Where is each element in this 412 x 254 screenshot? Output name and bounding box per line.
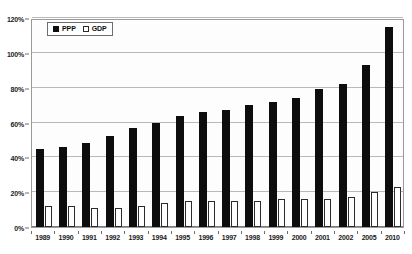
bar-gdp [208,201,215,227]
x-tick-label-1992: 1992 [105,234,120,241]
bar-gdp [115,208,122,227]
bar-ppp [106,136,114,227]
x-tick-label-1995: 1995 [175,234,190,241]
x-tick-mark [218,231,219,234]
y-axis: 0%20%40%60%80%100%120% [0,19,29,228]
y-tick-mark-20 [25,193,29,194]
x-tick-label-2010: 2010 [385,234,400,241]
x-tick-mark [381,231,382,234]
x-tick-mark [171,231,172,234]
x-tick-label-1989: 1989 [35,234,50,241]
bar-gdp [68,206,75,227]
bar-gdp [91,208,98,227]
x-tick-label-1994: 1994 [152,234,167,241]
x-tick-label-1990: 1990 [59,234,74,241]
bar-ppp [339,84,347,227]
y-tick-label-100: 100% [7,50,24,57]
plot-area [31,19,404,228]
x-tick-mark [241,231,242,234]
x-tick-mark [357,231,358,234]
x-tick-mark [264,231,265,234]
x-tick-label-2001: 2001 [315,234,330,241]
bar-ppp [292,98,300,227]
x-tick-label-2002: 2002 [338,234,353,241]
bar-ppp [36,149,44,227]
y-tick-label-0: 0% [14,225,24,232]
x-tick-mark [54,231,55,234]
y-tick-mark-100 [25,53,29,54]
bar-ppp [362,65,370,227]
y-tick-mark-0 [25,228,29,229]
bar-group [315,20,331,227]
x-tick-mark [334,231,335,234]
legend-entry-gdp: GDP [83,25,107,32]
y-tick-label-40: 40% [11,155,24,162]
x-tick-mark [78,231,79,234]
x-tick-mark [404,231,405,234]
x-tick-mark [101,231,102,234]
x-tick-label-2000: 2000 [292,234,307,241]
x-tick-mark [31,231,32,234]
y-tick-mark-120 [25,19,29,20]
bar-gdp [394,187,401,227]
bar-gdp [45,206,52,227]
hollow-square-icon [83,26,89,32]
bar-ppp [152,123,160,228]
x-tick-mark [287,231,288,234]
bar-ppp [269,102,277,227]
x-tick-label-1996: 1996 [198,234,213,241]
bar-gdp [138,206,145,227]
bar-group [36,20,52,227]
y-tick-mark-80 [25,88,29,89]
bars-layer [32,20,403,227]
y-tick-mark-40 [25,158,29,159]
x-tick-mark [124,231,125,234]
y-tick-label-80: 80% [11,85,24,92]
bar-ppp [59,147,67,227]
legend-entry-ppp: PPP [53,25,76,32]
bar-group [59,20,75,227]
x-tick-label-2005: 2005 [362,234,377,241]
bar-group [245,20,261,227]
y-tick-label-60: 60% [11,120,24,127]
x-tick-mark [148,231,149,234]
bar-group [362,20,378,227]
bar-gdp [161,203,168,227]
bar-ppp [199,112,207,227]
legend-label-gdp: GDP [92,25,107,32]
bar-gdp [348,197,355,227]
x-tick-label-1997: 1997 [222,234,237,241]
bar-gdp [301,199,308,227]
bar-gdp [371,192,378,227]
x-tick-label-1998: 1998 [245,234,260,241]
bar-group [339,20,355,227]
bar-ppp [245,105,253,227]
bar-group [222,20,238,227]
y-tick-label-20: 20% [11,190,24,197]
bar-ppp [222,110,230,227]
y-tick-label-120: 120% [7,16,24,23]
x-tick-mark [311,231,312,234]
bar-group [385,20,401,227]
bar-group [199,20,215,227]
bar-ppp [315,89,323,227]
x-tick-label-1993: 1993 [129,234,144,241]
legend-label-ppp: PPP [62,25,76,32]
x-axis: 1989199019911992199319941995199619971998… [31,231,404,247]
bar-group [152,20,168,227]
bar-gdp [231,201,238,227]
bar-gdp [254,201,261,227]
bar-group [292,20,308,227]
bar-group [106,20,122,227]
bar-group [176,20,192,227]
x-tick-label-1991: 1991 [82,234,97,241]
bar-ppp [129,128,137,227]
bar-gdp [278,199,285,227]
bar-group [129,20,145,227]
x-tick-mark [194,231,195,234]
bar-gdp [324,199,331,227]
bar-group [269,20,285,227]
gridline-120 [32,17,403,18]
filled-square-icon [53,26,59,32]
chart-legend: PPP GDP [47,22,113,36]
